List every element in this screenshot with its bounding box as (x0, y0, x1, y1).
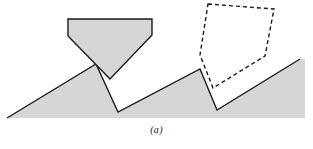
rough-surface-profile (7, 59, 305, 118)
stylus-dashed (200, 4, 274, 88)
stylus-solid (68, 19, 152, 79)
figure-caption: (a) (0, 124, 313, 135)
figure-container: (a) (0, 0, 313, 149)
